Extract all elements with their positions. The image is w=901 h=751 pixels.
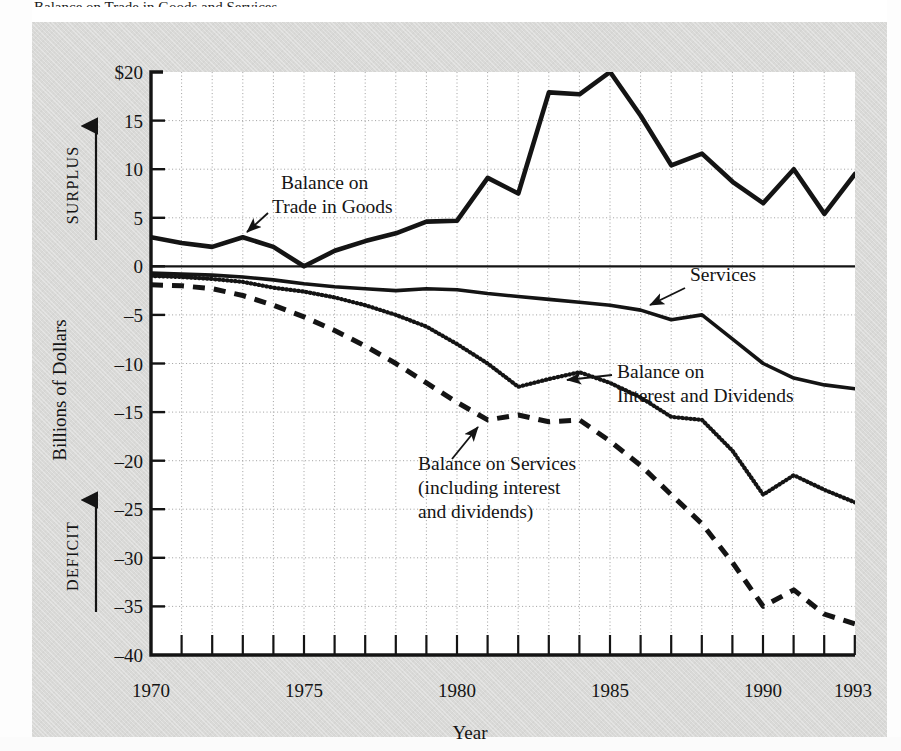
annotation-interest-line1: Balance on <box>617 361 704 382</box>
line-chart: $20 15 10 5 0 –5 –10 –15 –20 –25 –30 –35… <box>0 0 901 751</box>
x-tick-label-1985: 1985 <box>591 680 629 701</box>
y-tick-label-n30: –30 <box>114 548 144 569</box>
y-tick-label-15: 15 <box>124 111 143 132</box>
annotation-svcincl-line2: (including interest <box>418 477 561 499</box>
y-tick-label-n15: –15 <box>114 402 144 423</box>
y-tick-label-5: 5 <box>134 208 144 229</box>
x-tick-label-1993: 1993 <box>834 680 872 701</box>
y-tick-label-n5: –5 <box>123 305 143 326</box>
annotation-services: Services <box>690 264 756 285</box>
deficit-label: DEFICIT <box>64 521 81 591</box>
annotation-goods-line2: Trade in Goods <box>272 196 393 217</box>
y-tick-label-0: 0 <box>134 256 144 277</box>
y-tick-label-10: 10 <box>124 159 143 180</box>
x-tick-label-1970: 1970 <box>132 680 170 701</box>
annotation-svcincl-line1: Balance on Services <box>418 453 576 474</box>
x-tick-label-1975: 1975 <box>285 680 323 701</box>
y-tick-label-n35: –35 <box>114 596 144 617</box>
x-tick-label-1990: 1990 <box>744 680 782 701</box>
annotation-interest-line2: Interest and Dividends <box>617 385 794 406</box>
surplus-label: SURPLUS <box>64 146 81 225</box>
y-tick-label-n25: –25 <box>114 499 144 520</box>
x-tick-label-1980: 1980 <box>438 680 476 701</box>
x-axis-title: Year <box>452 722 488 743</box>
y-tick-label-n40: –40 <box>114 645 144 666</box>
y-tick-label-20: $20 <box>115 62 144 83</box>
y-tick-label-n10: –10 <box>114 354 144 375</box>
y-axis-title: Billions of Dollars <box>49 319 70 460</box>
annotation-goods-line1: Balance on <box>281 172 368 193</box>
annotation-svcincl-line3: and dividends) <box>418 501 533 523</box>
y-tick-label-n20: –20 <box>114 451 144 472</box>
